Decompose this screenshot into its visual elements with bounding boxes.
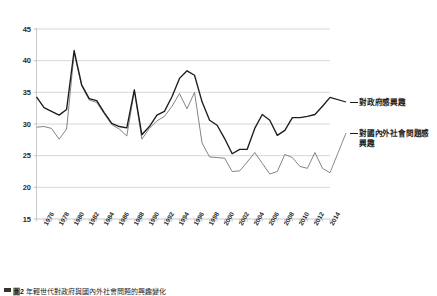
leader-line-social-issues	[330, 133, 346, 173]
axis-lines	[37, 28, 331, 219]
leader-line-government	[330, 97, 346, 102]
y-axis-tick-45: 45	[9, 25, 31, 34]
legend-label-government: 對政府感興趣	[359, 98, 406, 108]
caption-swatch	[4, 288, 11, 292]
gridlines	[37, 29, 331, 187]
legend-line-swatch-government	[350, 102, 358, 103]
y-axis-tick-30: 30	[9, 120, 31, 129]
legend-item-social-issues[interactable]: 對國內外社會問題感興趣	[350, 129, 436, 148]
chart-plot-area: 15202530354045 1976197819801982198419861…	[0, 0, 437, 296]
axis-tick-marks	[34, 29, 330, 222]
y-axis-tick-35: 35	[9, 88, 31, 97]
caption-number: 2	[20, 288, 24, 295]
figure-caption: 圖2 年輕世代對政府與國內外社會問題的興趣變化	[4, 286, 424, 296]
y-axis-tick-40: 40	[9, 56, 31, 65]
legend-leader-lines	[330, 97, 346, 172]
y-axis-tick-15: 15	[9, 215, 31, 224]
figure-container: 15202530354045 1976197819801982198419861…	[0, 0, 437, 296]
legend-label-social-issues: 對國內外社會問題感興趣	[359, 129, 436, 148]
legend-item-government[interactable]: 對政府感興趣	[350, 98, 436, 108]
y-axis-tick-20: 20	[9, 183, 31, 192]
legend-line-swatch-social-issues	[350, 133, 358, 134]
caption-prefix: 圖	[13, 288, 20, 295]
caption-text: 年輕世代對政府與國內外社會問題的興趣變化	[26, 288, 166, 295]
y-axis-tick-25: 25	[9, 151, 31, 160]
chart-svg	[0, 0, 437, 296]
